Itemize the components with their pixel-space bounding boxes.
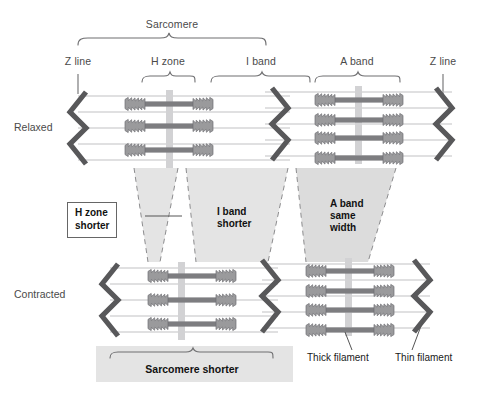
callout-i-band-shorter-line2: shorter (217, 218, 251, 230)
callout-i-band-shorter: I band shorter (217, 206, 251, 230)
callout-a-band-same-width-line3: width (330, 222, 364, 234)
label-h-zone: H zone (151, 55, 185, 67)
callout-a-band-same-width-line1: A band (330, 198, 364, 210)
label-thick-filament: Thick filament (307, 352, 369, 363)
relaxed-sarcomere (70, 86, 452, 168)
bracket-h-zone (142, 72, 195, 82)
row-label-contracted: Contracted (14, 288, 65, 300)
sarcomere-figure: Sarcomere Z line H zone I band A band Z … (0, 0, 477, 393)
callout-h-zone-shorter-line1: H zone (75, 207, 109, 220)
bracket-sarcomere (78, 33, 266, 45)
label-a-band: A band (340, 55, 373, 67)
callout-h-zone-shorter: H zone shorter (67, 202, 117, 238)
callout-a-band-same-width-line2: same (330, 210, 364, 222)
callout-i-band-shorter-line1: I band (217, 206, 251, 218)
label-i-band: I band (246, 55, 276, 67)
label-z-line-right: Z line (430, 55, 456, 67)
thick-filaments-relaxed-left (125, 97, 213, 156)
bracket-i-band (211, 72, 310, 82)
label-sarcomere: Sarcomere (146, 18, 198, 30)
label-z-line-left: Z line (65, 55, 91, 67)
callout-h-zone-shorter-line2: shorter (75, 220, 109, 233)
label-thin-filament: Thin filament (395, 352, 452, 363)
contracted-sarcomere (102, 258, 430, 340)
bracket-a-band (315, 72, 400, 82)
label-sarcomere-shorter: Sarcomere shorter (145, 363, 238, 375)
callout-a-band-same-width: A band same width (330, 198, 364, 234)
row-label-relaxed: Relaxed (14, 121, 53, 133)
thick-filaments-contracted-left (148, 269, 236, 330)
